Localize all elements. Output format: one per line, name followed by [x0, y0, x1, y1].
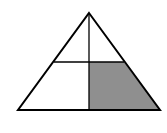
triangle-diagram	[0, 0, 167, 133]
shaded-region-bottom-right	[89, 62, 160, 110]
